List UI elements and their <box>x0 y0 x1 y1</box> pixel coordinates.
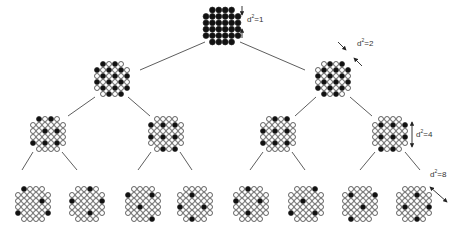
point-selected <box>334 68 339 73</box>
point-unselected <box>252 193 257 198</box>
point-selected <box>101 74 106 79</box>
point-unselected <box>397 123 402 128</box>
point-selected <box>119 92 124 97</box>
point-unselected <box>76 217 81 222</box>
point-selected <box>316 86 321 91</box>
point-unselected <box>373 199 378 204</box>
point-unselected <box>409 193 414 198</box>
tree-edge <box>138 152 151 170</box>
point-unselected <box>55 123 60 128</box>
point-unselected <box>319 199 324 204</box>
point-unselected <box>301 211 306 216</box>
point-unselected <box>43 147 48 152</box>
point-selected <box>202 205 207 210</box>
point-unselected <box>100 205 105 210</box>
point-selected <box>346 80 351 85</box>
point-unselected <box>125 68 130 73</box>
point-selected <box>173 135 178 140</box>
point-unselected <box>88 193 93 198</box>
point-selected <box>349 217 354 222</box>
point-unselected <box>313 205 318 210</box>
point-selected <box>285 129 290 134</box>
point-unselected <box>138 193 143 198</box>
point-unselected <box>385 117 390 122</box>
point-selected <box>216 20 222 26</box>
point-unselected <box>190 211 195 216</box>
point-unselected <box>379 129 384 134</box>
tree-edge <box>128 97 150 116</box>
point-unselected <box>70 205 75 210</box>
point-unselected <box>258 187 263 192</box>
point-unselected <box>37 147 42 152</box>
point-unselected <box>334 74 339 79</box>
point-selected <box>216 26 222 32</box>
point-selected <box>403 205 408 210</box>
point-unselected <box>240 211 245 216</box>
point-unselected <box>349 187 354 192</box>
point-unselected <box>319 193 324 198</box>
point-unselected <box>37 135 42 140</box>
point-unselected <box>307 199 312 204</box>
point-selected <box>222 39 228 45</box>
point-unselected <box>196 187 201 192</box>
point-unselected <box>126 199 131 204</box>
point-unselected <box>409 211 414 216</box>
point-unselected <box>367 199 372 204</box>
point-unselected <box>184 193 189 198</box>
point-selected <box>229 20 235 26</box>
point-unselected <box>167 141 172 146</box>
point-unselected <box>173 141 178 146</box>
point-unselected <box>125 80 130 85</box>
point-selected <box>235 20 241 26</box>
point-unselected <box>397 147 402 152</box>
point-selected <box>379 147 384 152</box>
point-selected <box>391 147 396 152</box>
point-unselected <box>88 217 93 222</box>
point-selected <box>285 117 290 122</box>
tree-edges <box>22 42 420 170</box>
point-unselected <box>295 187 300 192</box>
point-unselected <box>196 199 201 204</box>
point-unselected <box>313 199 318 204</box>
point-selected <box>210 7 216 13</box>
point-unselected <box>340 92 345 97</box>
point-selected <box>150 217 155 222</box>
point-unselected <box>322 86 327 91</box>
point-unselected <box>132 199 137 204</box>
point-unselected <box>415 187 420 192</box>
tree-edge <box>250 152 263 170</box>
point-unselected <box>22 199 27 204</box>
label-exponent: 2 <box>361 37 364 43</box>
point-selected <box>273 141 278 146</box>
point-unselected <box>40 211 45 216</box>
point-unselected <box>179 141 184 146</box>
point-unselected <box>267 135 272 140</box>
point-unselected <box>340 68 345 73</box>
point-unselected <box>373 141 378 146</box>
point-unselected <box>246 193 251 198</box>
point-unselected <box>196 205 201 210</box>
point-selected <box>173 123 178 128</box>
point-selected <box>101 62 106 67</box>
point-unselected <box>161 141 166 146</box>
point-unselected <box>49 141 54 146</box>
tree-edge <box>240 42 305 70</box>
point-selected <box>113 86 118 91</box>
point-unselected <box>119 62 124 67</box>
point-unselected <box>190 199 195 204</box>
point-unselected <box>246 205 251 210</box>
point-unselected <box>156 193 161 198</box>
point-unselected <box>391 117 396 122</box>
point-unselected <box>291 123 296 128</box>
point-unselected <box>155 123 160 128</box>
point-unselected <box>167 129 172 134</box>
point-selected <box>301 199 306 204</box>
point-unselected <box>301 187 306 192</box>
point-unselected <box>22 211 27 216</box>
point-unselected <box>234 211 239 216</box>
point-unselected <box>196 193 201 198</box>
point-selected <box>107 68 112 73</box>
point-unselected <box>273 135 278 140</box>
point-unselected <box>202 199 207 204</box>
point-unselected <box>88 205 93 210</box>
